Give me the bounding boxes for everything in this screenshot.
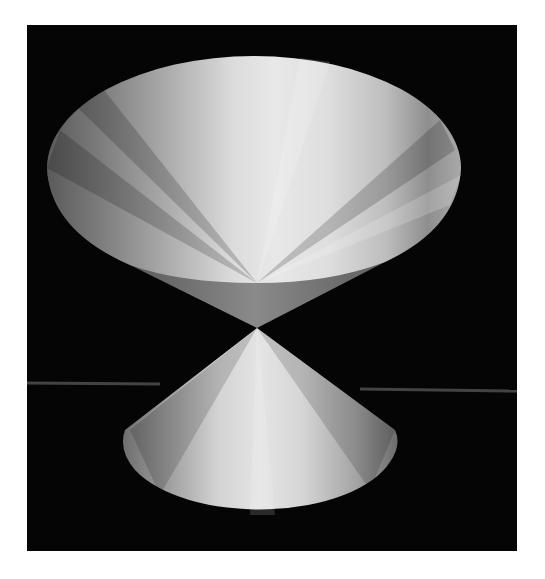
scan-line-right	[360, 389, 517, 391]
double-cone-figure	[0, 0, 545, 579]
scan-line	[27, 383, 160, 384]
